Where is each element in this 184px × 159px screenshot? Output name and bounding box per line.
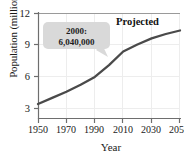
y-tick-label-9: 9 bbox=[14, 39, 30, 50]
y-tick-label-12: 12 bbox=[14, 8, 30, 19]
x-axis-title: Year bbox=[38, 141, 184, 153]
projected-label: Projected bbox=[116, 16, 159, 27]
y-axis-ticks bbox=[34, 14, 38, 109]
callout-line-1: 2000: bbox=[45, 26, 108, 37]
x-tick-label-2050: 2050 bbox=[164, 124, 184, 135]
x-tick-label-1990: 1990 bbox=[79, 124, 109, 135]
x-tick-label-2010: 2010 bbox=[108, 124, 138, 135]
y-tick-label-3: 3 bbox=[14, 103, 30, 114]
population-line-chart: Population (millions) Year 12 9 6 3 1950… bbox=[0, 0, 184, 159]
y-tick-label-6: 6 bbox=[14, 71, 30, 82]
x-tick-label-1950: 1950 bbox=[23, 124, 53, 135]
x-tick-label-1970: 1970 bbox=[51, 124, 81, 135]
x-tick-label-2030: 2030 bbox=[136, 124, 166, 135]
callout-2000-text: 2000: 6,040,000 bbox=[45, 26, 108, 48]
callout-line-2: 6,040,000 bbox=[45, 37, 108, 48]
